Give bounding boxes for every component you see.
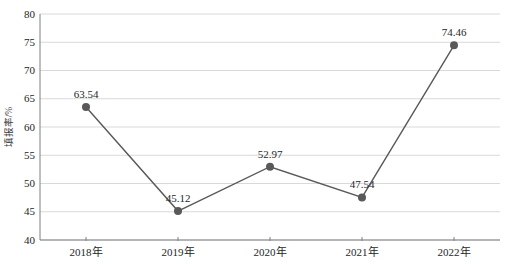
data-point-label: 52.97 — [258, 148, 283, 160]
y-tick-label: 50 — [24, 177, 36, 189]
y-axis-title: 填报率/% — [3, 107, 14, 148]
data-point-marker — [174, 207, 182, 215]
y-tick-label: 60 — [24, 121, 36, 133]
x-tick-label: 2018年 — [70, 245, 103, 258]
data-point-label: 47.54 — [350, 178, 375, 190]
data-point-marker — [358, 193, 366, 201]
x-tick-label: 2019年 — [162, 245, 195, 258]
chart-canvas: 4045505560657075802018年2019年2020年2021年20… — [0, 0, 507, 274]
y-tick-label: 80 — [24, 8, 36, 20]
y-tick-label: 40 — [24, 234, 36, 246]
y-tick-label: 75 — [24, 36, 36, 48]
data-point-marker — [266, 163, 274, 171]
x-tick-label: 2020年 — [254, 245, 287, 258]
line-chart: 4045505560657075802018年2019年2020年2021年20… — [0, 0, 507, 274]
x-tick-label: 2021年 — [346, 245, 379, 258]
y-tick-label: 55 — [24, 149, 36, 161]
x-tick-label: 2022年 — [438, 245, 471, 258]
y-tick-label: 65 — [24, 92, 36, 104]
data-point-label: 45.12 — [166, 192, 191, 204]
data-point-marker — [82, 103, 90, 111]
y-tick-label: 70 — [24, 64, 36, 76]
data-point-marker — [450, 41, 458, 49]
data-point-label: 63.54 — [74, 88, 99, 100]
y-tick-label: 45 — [24, 205, 36, 217]
data-point-label: 74.46 — [442, 26, 467, 38]
